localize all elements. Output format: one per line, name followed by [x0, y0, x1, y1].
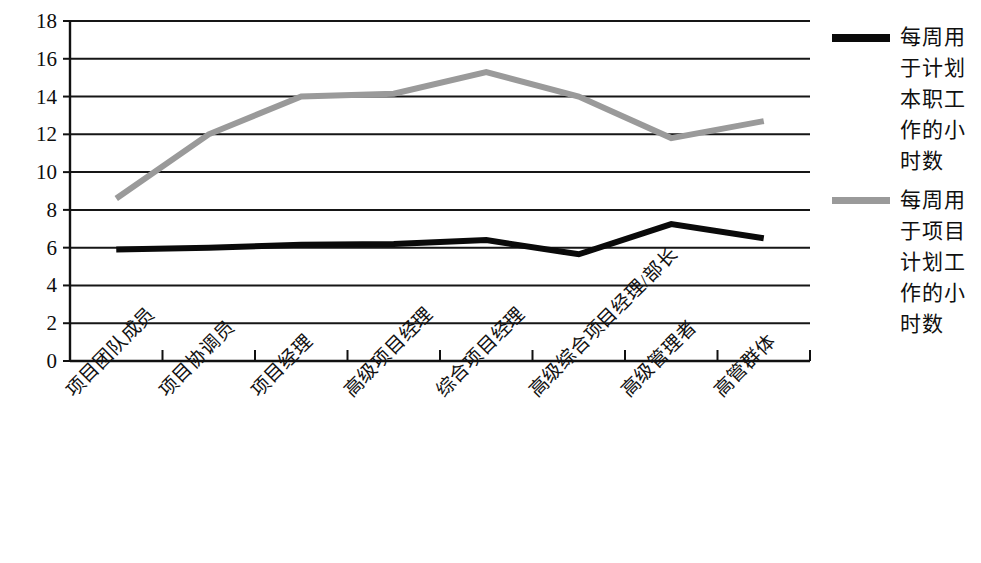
- chart-page: 181614121086420 项目团队成员项目协调员项目经理高级项目经理综合项…: [0, 0, 981, 563]
- y-tick-label: 6: [47, 236, 58, 260]
- y-tick-label: 0: [47, 349, 58, 373]
- grid-lines: [63, 21, 810, 361]
- y-tick-label: 4: [47, 273, 58, 297]
- legend-swatch-project-planning: [832, 197, 890, 204]
- y-tick-label: 2: [47, 311, 58, 335]
- y-tick-label: 18: [36, 9, 57, 33]
- legend-entry-own-work-planning: 每周用于计划本职工作的小时数: [832, 22, 981, 177]
- chart-legend: 每周用于计划本职工作的小时数 每周用于项目计划工作的小时数: [832, 22, 981, 348]
- series-line-1: [116, 224, 764, 254]
- legend-swatch-own-work-planning: [832, 34, 890, 42]
- y-tick-label: 10: [36, 160, 57, 184]
- y-tick-label: 16: [36, 47, 57, 71]
- legend-entry-project-planning: 每周用于项目计划工作的小时数: [832, 185, 981, 340]
- y-tick-label: 14: [36, 85, 58, 109]
- legend-label-own-work-planning: 每周用于计划本职工作的小时数: [900, 22, 978, 177]
- data-series: [116, 72, 764, 254]
- axis-lines: [70, 21, 810, 361]
- y-tick-label: 12: [36, 122, 57, 146]
- y-tick-label: 8: [47, 198, 58, 222]
- x-axis-tick-marks: [70, 350, 810, 361]
- y-axis-tick-labels: 181614121086420: [36, 9, 58, 373]
- legend-label-project-planning: 每周用于项目计划工作的小时数: [900, 185, 978, 340]
